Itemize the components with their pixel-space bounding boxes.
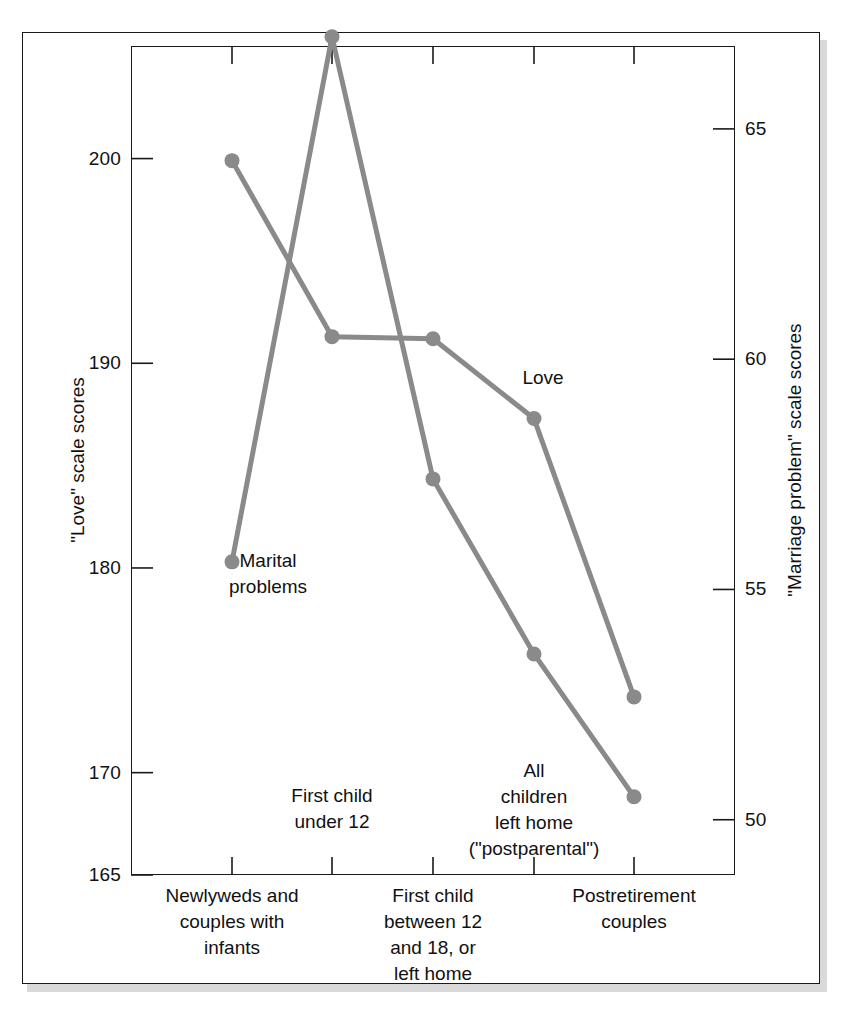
category-label-c5: Postretirement couples [572,883,696,935]
plot-area-frame [131,46,735,875]
right-tick-label: 60 [745,348,805,370]
left-tick-label: 165 [53,864,121,886]
left-tick-label: 180 [53,557,121,579]
category-label-c3: First child between 12 and 18, or left h… [384,883,482,987]
left-tick-label: 200 [53,148,121,170]
category-label-c1: Newlyweds and couples with infants [165,883,298,961]
left-tick-label: 170 [53,762,121,784]
figure-root: "Love" scale scores "Marriage problem" s… [0,0,847,1023]
category-label-c2: First child under 12 [291,783,372,835]
right-tick-label: 50 [745,809,805,831]
series-label-marital: Marital problems [229,548,307,600]
series-label-love: Love [522,365,563,391]
left-tick-label: 190 [53,352,121,374]
left-axis-title: "Love" scale scores [67,377,89,543]
right-tick-label: 55 [745,578,805,600]
right-tick-label: 65 [745,118,805,140]
category-label-c4: All children left home ("postparental") [469,758,600,862]
